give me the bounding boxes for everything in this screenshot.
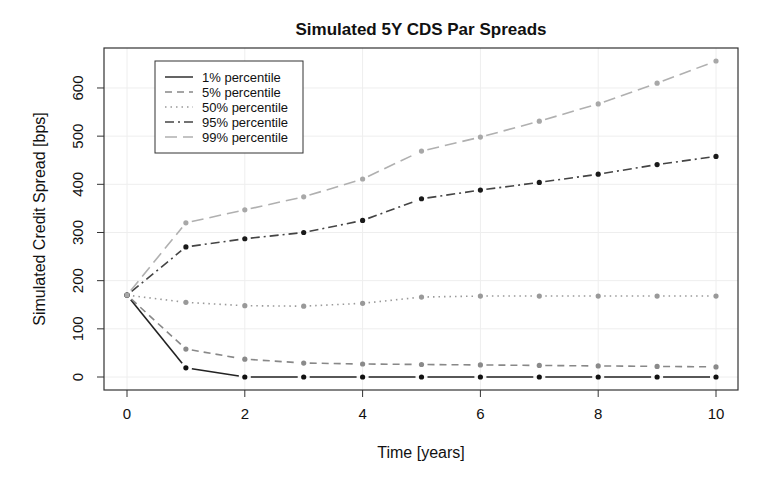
data-point <box>183 244 188 249</box>
y-tick-label: 300 <box>69 220 86 245</box>
data-point <box>713 154 718 159</box>
data-point <box>478 293 483 298</box>
series-segment <box>545 106 592 120</box>
data-point <box>537 180 542 185</box>
data-point <box>242 236 247 241</box>
data-point <box>596 172 601 177</box>
series-segment <box>663 157 710 164</box>
data-point <box>596 363 601 368</box>
y-axis-label: Simulated Credit Spread [bps] <box>31 112 48 325</box>
legend: 1% percentile5% percentile50% percentile… <box>155 61 303 153</box>
x-tick-label: 10 <box>708 405 725 422</box>
data-point <box>537 119 542 124</box>
series-segment <box>309 181 356 195</box>
series-segment <box>369 298 416 303</box>
data-point <box>419 362 424 367</box>
data-point <box>360 361 365 366</box>
y-tick-label: 100 <box>69 316 86 341</box>
series-segment <box>427 191 474 198</box>
y-tick-label: 400 <box>69 172 86 197</box>
data-point <box>537 293 542 298</box>
series-segment <box>663 63 711 81</box>
series-segment <box>310 222 357 232</box>
series-segment <box>545 175 592 182</box>
legend-label: 99% percentile <box>202 130 288 145</box>
data-point <box>478 135 483 140</box>
data-point <box>419 374 424 379</box>
series-segment <box>192 369 239 376</box>
series-segment <box>251 198 298 208</box>
data-point <box>537 363 542 368</box>
chart: Simulated 5Y CDS Par Spreads 0246810 010… <box>0 0 765 489</box>
data-point <box>301 360 306 365</box>
data-point <box>183 300 188 305</box>
data-point <box>478 374 483 379</box>
data-point <box>596 101 601 106</box>
data-point <box>419 148 424 153</box>
data-point <box>655 293 660 298</box>
x-tick-label: 4 <box>358 405 366 422</box>
x-tick-label: 6 <box>476 405 484 422</box>
series-segment <box>427 296 474 297</box>
series-5-percentile <box>124 293 718 370</box>
data-point <box>478 188 483 193</box>
data-point <box>655 81 660 86</box>
series-segment <box>310 304 357 306</box>
series-50-percentile <box>124 293 718 309</box>
series-segment <box>192 350 239 358</box>
data-point <box>655 374 660 379</box>
series-segment <box>132 251 182 292</box>
data-point <box>183 346 188 351</box>
series-segment <box>368 154 416 177</box>
legend-label: 5% percentile <box>202 85 281 100</box>
series-segment <box>192 211 239 221</box>
series-95-percentile <box>124 154 718 298</box>
series-segment <box>486 123 533 136</box>
data-point <box>596 293 601 298</box>
data-point <box>242 357 247 362</box>
x-tick-label: 0 <box>123 405 131 422</box>
series-segment <box>604 166 651 174</box>
y-tick-label: 0 <box>69 373 86 381</box>
legend-label: 50% percentile <box>202 100 288 115</box>
data-point <box>360 301 365 306</box>
x-axis-label: Time [years] <box>377 444 464 461</box>
data-point <box>183 365 188 370</box>
y-tick-label: 500 <box>69 124 86 149</box>
y-tick-label: 600 <box>69 75 86 100</box>
data-point <box>301 194 306 199</box>
data-point <box>713 364 718 369</box>
data-point <box>478 362 483 367</box>
data-point <box>301 230 306 235</box>
series-segment <box>368 201 416 219</box>
data-point <box>713 374 718 379</box>
data-point <box>301 374 306 379</box>
x-axis: 0246810 <box>123 390 725 422</box>
data-point <box>242 207 247 212</box>
data-point <box>242 303 247 308</box>
chart-title: Simulated 5Y CDS Par Spreads <box>295 20 546 39</box>
legend-label: 95% percentile <box>202 115 288 130</box>
data-point <box>419 196 424 201</box>
series-segment <box>427 138 474 149</box>
data-point <box>360 218 365 223</box>
data-point <box>537 374 542 379</box>
y-tick-label: 200 <box>69 268 86 293</box>
series-segment <box>131 300 182 363</box>
series-segment <box>131 299 181 345</box>
series-segment <box>192 303 239 306</box>
data-point <box>596 374 601 379</box>
x-tick-label: 2 <box>241 405 249 422</box>
series-segment <box>251 233 298 238</box>
data-point <box>242 374 247 379</box>
legend-label: 1% percentile <box>202 70 281 85</box>
data-point <box>360 176 365 181</box>
series-segment <box>251 360 298 363</box>
series-segment <box>192 240 239 247</box>
y-axis: 0100200300400500600 <box>69 75 104 381</box>
data-point <box>713 293 718 298</box>
data-point <box>301 304 306 309</box>
data-point <box>713 58 718 63</box>
data-point <box>124 293 129 298</box>
series-segment <box>133 296 180 302</box>
